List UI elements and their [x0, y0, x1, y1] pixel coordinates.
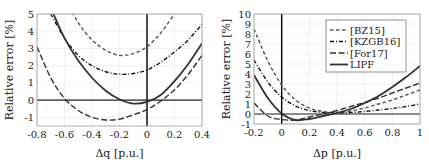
chart-reactive-power-error: -0.8-0.6-0.4-0.200.20.4-1012345Δq [p.u.]… — [3, 0, 210, 160]
y-tick-label: 5 — [245, 59, 251, 70]
x-tick-label: -0.4 — [82, 129, 101, 140]
x-tick-label: 0.2 — [301, 127, 317, 138]
x-tick-label: 0.2 — [167, 129, 183, 140]
y-tick-label: 0 — [28, 95, 34, 106]
chart-active-power-error: -0.200.20.40.60.81-1012345678910Δp [p.u.… — [220, 9, 423, 161]
x-tick-label: 0.4 — [329, 127, 345, 138]
x-tick-label: -0.6 — [55, 129, 74, 140]
y-tick-label: 4 — [245, 69, 251, 80]
y-tick-label: 1 — [245, 99, 251, 110]
legend-label: [KZGB16] — [350, 36, 400, 47]
x-axis-label: Δp [p.u.] — [313, 147, 361, 160]
legend: [BZ15][KZGB16][For17]LIPF — [326, 20, 406, 72]
y-tick-label: -1 — [24, 112, 34, 123]
legend-label: [BZ15] — [350, 25, 385, 36]
y-tick-label: 0 — [245, 109, 251, 120]
y-tick-label: 4 — [28, 26, 34, 37]
y-tick-label: 2 — [28, 60, 34, 71]
x-tick-label: 0.6 — [357, 127, 373, 138]
y-axis-label: Relative error [%] — [220, 19, 233, 119]
y-tick-label: 10 — [238, 9, 251, 20]
x-tick-label: -0.8 — [27, 129, 46, 140]
y-tick-label: 1 — [28, 77, 34, 88]
y-tick-label: 7 — [245, 39, 251, 50]
y-tick-label: 5 — [28, 9, 34, 20]
legend-label: [For17] — [350, 48, 388, 59]
figure: -0.8-0.6-0.4-0.200.20.4-1012345Δq [p.u.]… — [0, 0, 429, 164]
y-tick-label: 9 — [245, 19, 251, 30]
y-tick-label: -1 — [241, 119, 251, 130]
y-tick-label: 3 — [28, 43, 34, 54]
x-tick-label: 0 — [278, 127, 284, 138]
x-tick-label: 0.8 — [384, 127, 400, 138]
y-tick-label: 2 — [245, 89, 251, 100]
x-tick-label: -0.2 — [110, 129, 129, 140]
x-tick-label: 0.4 — [194, 129, 210, 140]
y-tick-label: 8 — [245, 29, 251, 40]
y-axis-label: Relative error [%] — [3, 20, 16, 120]
legend-label: LIPF — [350, 59, 374, 70]
x-tick-label: 0 — [144, 129, 150, 140]
y-tick-label: 3 — [245, 79, 251, 90]
y-tick-label: 6 — [245, 49, 251, 60]
x-tick-label: 1 — [417, 127, 423, 138]
x-axis-label: Δq [p.u.] — [95, 147, 143, 160]
